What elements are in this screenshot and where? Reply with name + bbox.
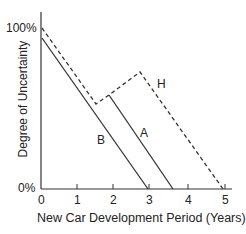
chart: 100% 0% 0 1 2 3 4 5 New Car Development … [0,0,246,234]
x-tick-label-2: 2 [110,193,117,207]
x-tick-label-5: 5 [222,193,229,207]
x-tick-label-0: 0 [38,193,45,207]
chart-plot [0,0,246,234]
series-h-label: H [157,77,166,91]
series-a-label: A [140,126,148,140]
y-tick-0: 0% [18,181,35,195]
series-b-line [42,38,148,189]
series-b-label: B [97,133,105,147]
series-h-line [42,28,223,189]
series-a-line [109,95,173,189]
y-tick-100: 100% [6,21,37,35]
x-axis-label: New Car Development Period (Years) [37,211,246,225]
x-tick-label-4: 4 [185,193,192,207]
y-axis-label: Degree of Uncertainty [16,34,30,164]
x-tick-label-1: 1 [74,193,81,207]
x-tick-label-3: 3 [146,193,153,207]
